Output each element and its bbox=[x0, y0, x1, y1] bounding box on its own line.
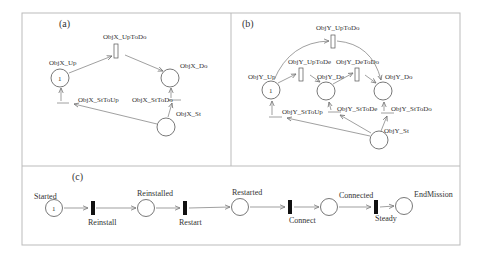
place-objy-do bbox=[374, 82, 392, 100]
transition-steady bbox=[374, 200, 378, 214]
label-objy-uptodo: ObjY_UpToDo bbox=[316, 24, 360, 32]
transition-connect bbox=[288, 200, 292, 214]
label-objy-uptode: ObjY_UpToDe bbox=[288, 58, 331, 66]
label-objy-up: ObjY_Up bbox=[248, 73, 276, 81]
arc-uptodo-to-do bbox=[125, 55, 163, 71]
arc-st-to-sttoup bbox=[287, 118, 370, 136]
transition-objy-uptode bbox=[299, 68, 303, 81]
place-restarted bbox=[232, 199, 249, 216]
arc-steady-to-endmission bbox=[380, 206, 394, 207]
label-restart: Restart bbox=[179, 218, 202, 227]
place-endmission bbox=[396, 198, 413, 215]
token-objx-up: 1 bbox=[58, 75, 62, 83]
panel-b-tag: (b) bbox=[242, 18, 254, 30]
label-objy-st: ObjY_St bbox=[384, 127, 409, 135]
label-objy-sttodo: ObjY_StToDo bbox=[391, 105, 432, 113]
arc-restart-to-restarted bbox=[189, 207, 230, 208]
label-endmission: EndMission bbox=[414, 190, 453, 199]
label-connect: Connect bbox=[289, 216, 316, 225]
arc-up-to-uptode bbox=[278, 74, 296, 83]
label-objx-sttoup: ObjX_StToUp bbox=[78, 96, 119, 104]
label-objy-sttode: ObjY_StToDe bbox=[337, 105, 377, 113]
label-reinstall: Reinstall bbox=[88, 218, 117, 227]
label-reinstalled: Reinstalled bbox=[137, 189, 173, 198]
place-reinstalled bbox=[138, 200, 155, 217]
label-steady: Steady bbox=[375, 214, 397, 223]
transition-reinstall bbox=[91, 201, 95, 215]
label-objy-do: ObjY_Do bbox=[385, 73, 413, 81]
panel-a: (a) 1 ObjX_Up ObjX_UpToDo ObjX_Do ObjX_S… bbox=[49, 18, 208, 136]
panel-b: (b) 1 ObjY_Up ObjY_De ObjY_Do ObjY_St Ob… bbox=[242, 18, 432, 149]
label-restarted: Restarted bbox=[232, 188, 262, 197]
label-objx-up: ObjX_Up bbox=[49, 59, 77, 67]
place-connected bbox=[321, 199, 338, 216]
label-objy-detodo: ObjY_DeToDo bbox=[336, 58, 380, 66]
label-objx-do: ObjX_Do bbox=[180, 62, 208, 70]
transition-objx-uptodo bbox=[114, 44, 118, 58]
place-objx-st bbox=[157, 118, 175, 136]
transition-restart bbox=[183, 201, 187, 215]
arc-sttode-to-de bbox=[329, 102, 331, 110]
label-objy-sttoup: ObjY_StToUp bbox=[282, 108, 323, 116]
token-objy-up: 1 bbox=[269, 87, 273, 95]
label-connected: Connected bbox=[339, 191, 373, 200]
transition-objy-detodo bbox=[355, 68, 359, 81]
label-objx-uptodo: ObjX_UpToDo bbox=[103, 33, 147, 41]
panel-c: (c) 1 Started Reinstall Reinstalled Rest… bbox=[34, 171, 453, 227]
panel-c-tag: (c) bbox=[72, 171, 83, 183]
label-objx-sttodo: ObjX_StToDo bbox=[132, 96, 173, 104]
place-objy-de bbox=[317, 82, 335, 100]
label-started: Started bbox=[34, 192, 57, 201]
petri-net-figure: (a) 1 ObjX_Up ObjX_UpToDo ObjX_Do ObjX_S… bbox=[0, 0, 479, 256]
arc-detodo-to-do bbox=[365, 75, 376, 83]
panel-a-tag: (a) bbox=[59, 18, 70, 30]
token-started: 1 bbox=[52, 205, 56, 213]
transition-objy-uptodo bbox=[331, 35, 335, 48]
label-objx-st: ObjX_St bbox=[176, 110, 201, 118]
arc-st-to-sttodo bbox=[168, 103, 172, 117]
arc-st-to-sttoup bbox=[74, 104, 157, 124]
place-objx-do bbox=[161, 69, 179, 87]
